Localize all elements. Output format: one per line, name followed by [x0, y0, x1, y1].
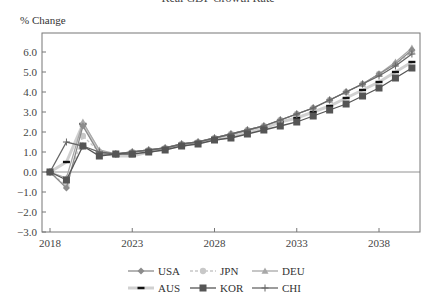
- jpn-legend-marker-icon: [189, 266, 217, 276]
- y-tick-label: 0.0: [23, 166, 37, 178]
- series-usa: [47, 47, 416, 192]
- y-tick-label: 6.0: [23, 46, 37, 58]
- legend-label: AUS: [158, 282, 180, 294]
- legend-row-1: USAJPNDEU: [0, 262, 436, 279]
- x-tick-label: 2038: [368, 237, 391, 249]
- legend-row-2: AUSKORCHI: [0, 279, 436, 296]
- legend-item-usa: USA: [127, 265, 185, 277]
- legend-label: KOR: [220, 282, 243, 294]
- kor-legend-marker-icon: [189, 283, 217, 293]
- legend-item-deu: DEU: [251, 265, 309, 277]
- y-tick-label: 4.0: [23, 86, 37, 98]
- y-tick-label: 2.0: [23, 126, 37, 138]
- x-tick-label: 2023: [121, 237, 144, 249]
- legend-item-jpn: JPN: [189, 265, 247, 277]
- legend-label: DEU: [282, 265, 305, 277]
- chi-legend-marker-icon: [251, 283, 279, 293]
- legend: USAJPNDEU AUSKORCHI: [0, 262, 436, 296]
- legend-label: JPN: [220, 265, 238, 277]
- legend-item-aus: AUS: [127, 282, 185, 294]
- y-tick-label: 5.0: [23, 66, 37, 78]
- series-deu: [47, 45, 416, 181]
- aus-legend-marker-icon: [127, 283, 155, 293]
- line-chart: 6.05.04.03.02.01.00.0−1.0−2.0−3.02018202…: [0, 0, 436, 262]
- x-tick-label: 2028: [204, 237, 227, 249]
- usa-legend-marker-icon: [127, 266, 155, 276]
- legend-item-kor: KOR: [189, 282, 247, 294]
- legend-item-chi: CHI: [251, 282, 309, 294]
- y-tick-label: 3.0: [23, 106, 37, 118]
- y-tick-label: 1.0: [23, 146, 37, 158]
- legend-label: USA: [158, 265, 180, 277]
- x-tick-label: 2033: [286, 237, 309, 249]
- x-tick-label: 2018: [39, 237, 62, 249]
- y-tick-label: −2.0: [17, 206, 37, 218]
- y-tick-label: −1.0: [17, 186, 37, 198]
- legend-label: CHI: [282, 282, 301, 294]
- series-jpn: [47, 49, 415, 189]
- deu-legend-marker-icon: [251, 266, 279, 276]
- y-tick-label: −3.0: [17, 226, 37, 238]
